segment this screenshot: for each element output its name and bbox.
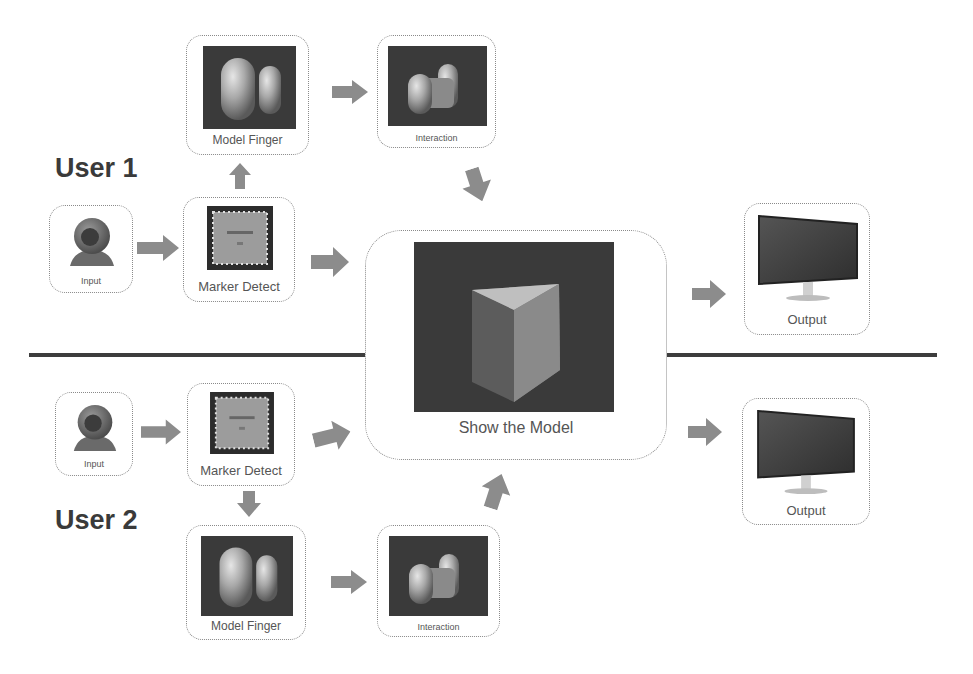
model-finger-node-user1: Model Finger (186, 35, 309, 155)
input-node-user1: Input (49, 205, 133, 293)
output-label: Output (743, 503, 869, 518)
marker-icon (207, 206, 273, 270)
arrow-down-icon (237, 491, 261, 517)
interaction-node-user1: Interaction (377, 35, 496, 148)
arrow-right-icon (692, 280, 726, 308)
arrow-right-icon (137, 235, 179, 261)
marker-detect-node-user2: Marker Detect (187, 383, 295, 486)
divider-left (29, 353, 365, 357)
arrow-right-icon (688, 418, 722, 446)
webcam-icon (70, 401, 120, 453)
interaction-node-user2: Interaction (377, 525, 500, 637)
finger-model-icon (203, 46, 296, 129)
input-label: Input (56, 459, 132, 469)
webcam-icon (66, 214, 118, 268)
monitor-icon (755, 409, 857, 497)
show-model-node: Show the Model (365, 230, 667, 460)
marker-detect-label: Marker Detect (184, 279, 294, 294)
output-node-user1: Output (744, 203, 870, 335)
user-2-label: User 2 (55, 505, 138, 536)
interaction-icon (388, 46, 487, 126)
marker-detect-label: Marker Detect (188, 463, 294, 478)
arrow-up-icon (229, 163, 251, 189)
arrow-right-icon (141, 419, 181, 445)
model-finger-node-user2: Model Finger (186, 525, 306, 640)
model-finger-label: Model Finger (187, 133, 308, 147)
divider-right (666, 353, 937, 357)
marker-detect-node-user1: Marker Detect (183, 197, 295, 302)
finger-model-icon (201, 536, 293, 616)
arrow-up-icon (476, 469, 516, 513)
interaction-icon (389, 536, 488, 616)
interaction-label: Interaction (378, 133, 495, 143)
arrow-right-icon (331, 570, 367, 594)
show-model-label: Show the Model (366, 419, 666, 437)
arrow-right-icon (310, 417, 354, 455)
marker-icon (210, 392, 274, 454)
output-node-user2: Output (742, 398, 870, 525)
arrow-right-icon (332, 80, 368, 104)
cube-icon (414, 242, 614, 412)
input-node-user2: Input (55, 392, 133, 476)
input-label: Input (50, 276, 132, 286)
user-1-label: User 1 (55, 153, 138, 184)
interaction-label: Interaction (378, 622, 499, 632)
monitor-icon (757, 214, 859, 304)
model-finger-label: Model Finger (187, 619, 305, 633)
arrow-down-icon (457, 164, 496, 206)
output-label: Output (745, 312, 869, 327)
arrow-right-icon (311, 247, 349, 277)
